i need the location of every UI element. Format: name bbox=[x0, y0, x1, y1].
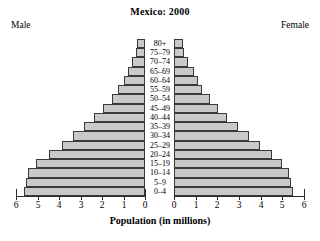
bar-row-female bbox=[174, 122, 304, 131]
bar-row-male bbox=[16, 113, 145, 122]
bar-row-male bbox=[16, 131, 145, 140]
bar-row-male bbox=[16, 141, 145, 150]
x-tick-label-right: 0 bbox=[167, 200, 181, 210]
age-group-label: 25–29 bbox=[145, 141, 175, 150]
bar-row-female bbox=[174, 113, 304, 122]
bar-female-70-74 bbox=[174, 57, 188, 66]
bar-male-45-49 bbox=[103, 104, 145, 113]
axis-end-cap-left-inner bbox=[145, 189, 146, 197]
bar-male-15-19 bbox=[36, 159, 145, 168]
bar-female-15-19 bbox=[174, 159, 282, 168]
bar-male-5-9 bbox=[26, 178, 145, 187]
bar-row-male bbox=[16, 67, 145, 76]
bar-male-25-29 bbox=[62, 141, 145, 150]
bar-row-female bbox=[174, 168, 304, 177]
x-tick-label-right: 4 bbox=[254, 200, 268, 210]
bar-row-female bbox=[174, 104, 304, 113]
x-axis-left bbox=[16, 196, 146, 197]
bar-male-70-74 bbox=[132, 57, 145, 66]
bar-male-80+ bbox=[137, 39, 145, 48]
bar-male-30-34 bbox=[73, 131, 145, 140]
bar-row-female bbox=[174, 76, 304, 85]
population-pyramid-chart: Mexico: 2000 Male Female 0–45–910–1415–1… bbox=[0, 0, 320, 241]
bar-female-25-29 bbox=[174, 141, 260, 150]
bar-row-male bbox=[16, 187, 145, 196]
x-axis-caption: Population (in millions) bbox=[0, 215, 320, 226]
bar-row-female bbox=[174, 67, 304, 76]
bar-row-male bbox=[16, 104, 145, 113]
x-tick-label-left: 2 bbox=[95, 200, 109, 210]
age-group-label: 80+ bbox=[145, 39, 175, 48]
bar-male-20-24 bbox=[49, 150, 145, 159]
bar-female-50-54 bbox=[174, 94, 210, 103]
bar-female-60-64 bbox=[174, 76, 198, 85]
bar-row-male bbox=[16, 168, 145, 177]
bar-row-female bbox=[174, 131, 304, 140]
bar-female-45-49 bbox=[174, 104, 218, 113]
bar-row-female bbox=[174, 187, 304, 196]
age-group-label: 40–44 bbox=[145, 113, 175, 122]
age-group-label: 0–4 bbox=[145, 187, 175, 196]
axis-end-cap-right-outer bbox=[304, 189, 305, 197]
bar-row-male bbox=[16, 94, 145, 103]
bar-row-female bbox=[174, 141, 304, 150]
x-tick-label-left: 5 bbox=[31, 200, 45, 210]
bar-row-female bbox=[174, 57, 304, 66]
x-tick-label-left: 6 bbox=[9, 200, 23, 210]
age-group-label: 5–9 bbox=[145, 178, 175, 187]
bar-row-male bbox=[16, 57, 145, 66]
bar-female-40-44 bbox=[174, 113, 227, 122]
bar-row-female bbox=[174, 178, 304, 187]
bar-row-female bbox=[174, 48, 304, 57]
bar-female-30-34 bbox=[174, 131, 249, 140]
age-group-label: 50–54 bbox=[145, 94, 175, 103]
bar-female-65-69 bbox=[174, 67, 194, 76]
x-axis-right bbox=[174, 196, 305, 197]
bar-row-male bbox=[16, 150, 145, 159]
bar-row-male bbox=[16, 85, 145, 94]
x-tick-label-left: 4 bbox=[52, 200, 66, 210]
bar-male-0-4 bbox=[24, 187, 145, 196]
bar-row-female bbox=[174, 85, 304, 94]
bar-row-female bbox=[174, 150, 304, 159]
bar-row-female bbox=[174, 94, 304, 103]
bar-row-male bbox=[16, 122, 145, 131]
age-group-label: 75–79 bbox=[145, 48, 175, 57]
bar-female-75-79 bbox=[174, 48, 184, 57]
bar-row-male bbox=[16, 178, 145, 187]
age-group-label: 30–34 bbox=[145, 131, 175, 140]
bar-male-65-69 bbox=[128, 67, 145, 76]
bar-male-55-59 bbox=[118, 85, 145, 94]
bar-female-20-24 bbox=[174, 150, 272, 159]
age-group-label: 65–69 bbox=[145, 67, 175, 76]
age-group-label: 20–24 bbox=[145, 150, 175, 159]
bar-female-55-59 bbox=[174, 85, 202, 94]
bar-female-80+ bbox=[174, 39, 183, 48]
bar-row-male bbox=[16, 159, 145, 168]
age-group-label: 45–49 bbox=[145, 104, 175, 113]
bar-male-35-39 bbox=[84, 122, 145, 131]
bar-male-60-64 bbox=[124, 76, 146, 85]
bar-female-0-4 bbox=[174, 187, 293, 196]
bar-row-male bbox=[16, 48, 145, 57]
age-group-label: 35–39 bbox=[145, 122, 175, 131]
age-group-label: 10–14 bbox=[145, 168, 175, 177]
bar-male-10-14 bbox=[28, 168, 145, 177]
bar-row-female bbox=[174, 39, 304, 48]
x-tick-label-right: 2 bbox=[210, 200, 224, 210]
bar-male-75-79 bbox=[136, 48, 145, 57]
bar-female-10-14 bbox=[174, 168, 289, 177]
x-tick-label-right: 3 bbox=[232, 200, 246, 210]
bar-row-female bbox=[174, 159, 304, 168]
x-tick-label-right: 5 bbox=[275, 200, 289, 210]
bar-male-40-44 bbox=[94, 113, 145, 122]
bar-row-male bbox=[16, 76, 145, 85]
plot-area: 0–45–910–1415–1920–2425–2930–3435–3940–4… bbox=[0, 0, 320, 241]
axis-end-cap-left-outer bbox=[16, 189, 17, 197]
x-tick-label-left: 1 bbox=[117, 200, 131, 210]
bar-male-50-54 bbox=[112, 94, 145, 103]
age-group-label: 55–59 bbox=[145, 85, 175, 94]
age-group-label: 70–74 bbox=[145, 57, 175, 66]
bar-row-male bbox=[16, 39, 145, 48]
x-tick-label-right: 1 bbox=[189, 200, 203, 210]
